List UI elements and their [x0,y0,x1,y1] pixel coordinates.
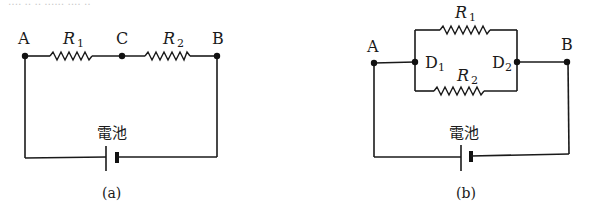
caption-a: (a) [102,185,121,201]
wire-b-right [568,62,569,154]
resistor-r1-icon [50,52,92,60]
resistor-r2-icon [145,52,190,60]
label-r2-subscript: 2 [177,37,184,50]
wire-a-bottom-left [25,157,106,158]
diagram-b-parallel-circuit: A B D 1 D 2 R 1 R 2 電池 (b) [366,3,573,201]
label-node-d1-subscript: 1 [438,61,445,74]
label-r1-subscript: 1 [469,11,476,24]
node-d2-dot [514,59,520,65]
label-node-a: A [17,29,30,48]
cutoff-text: ‥‥ ‥ ‥ ‥‥‥ ‥‥ ‥ [8,0,91,7]
resistor-r2-icon [434,87,484,95]
label-r1-subscript: 1 [77,37,84,50]
node-b-dot [214,53,220,59]
label-node-b: B [561,35,573,54]
wire-b-a-d1 [374,62,415,63]
circuit-figure: ‥‥ ‥ ‥ ‥‥‥ ‥‥ ‥ A C B R 1 R 2 電池 (a) [0,0,592,214]
node-b-dot [564,59,570,65]
label-node-d2: D [492,53,505,72]
label-r2: R [456,66,469,85]
label-node-b: B [212,29,224,48]
label-r2: R [162,29,175,48]
label-r1: R [454,3,467,22]
node-a-dot [22,53,28,59]
label-node-d2-subscript: 2 [505,61,512,74]
node-a-dot [371,60,377,66]
node-d1-dot [412,59,418,65]
diagram-a-series-circuit: A C B R 1 R 2 電池 (a) [17,29,224,201]
label-r2-subscript: 2 [471,74,478,87]
label-node-d1: D [425,53,438,72]
caption-b: (b) [456,185,476,201]
resistor-r1-icon [440,26,490,34]
label-battery: 電池 [97,124,127,142]
label-r1: R [62,29,75,48]
node-c-dot [119,53,125,59]
label-node-a: A [366,37,379,56]
label-node-c: C [116,29,128,48]
wire-b-bottom-right-run [471,154,569,156]
label-battery: 電池 [449,124,479,142]
